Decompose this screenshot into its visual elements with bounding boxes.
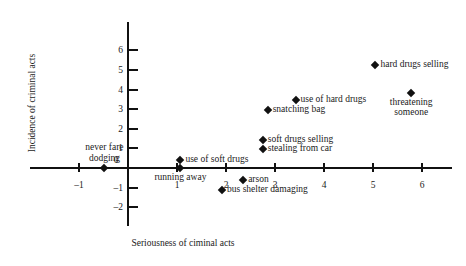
scatter-chart: –10123456 –2–1123456 hard drugs sellingt… [0,0,466,266]
y-axis-tick-label: 2 [103,124,123,134]
data-point-label: snatching bag [273,104,326,115]
diamond-marker-icon [263,106,271,114]
y-axis-title: Incidence of criminal acts [27,23,37,183]
x-axis-tick [323,163,325,172]
y-axis-tick [129,206,138,208]
data-point-label: never fare dodging [69,142,139,163]
x-axis-tick-label: 5 [363,180,383,190]
data-point-label: use of soft drugs [185,154,248,165]
y-axis-tick-label: –1 [103,183,123,193]
diamond-marker-icon [100,164,108,172]
x-axis-tick-label: 4 [314,180,334,190]
x-axis-tick-label: –1 [69,180,89,190]
x-axis-tick-label: 6 [412,180,432,190]
x-axis-tick [274,163,276,172]
diamond-marker-icon [259,135,267,143]
data-point-label: bus shelter damaging [227,184,308,195]
y-axis-tick [129,128,138,130]
y-axis-tick-label: 6 [103,45,123,55]
y-axis-tick-label: 4 [103,85,123,95]
data-point-label: threatening someone [376,97,446,118]
y-axis-line [127,22,129,226]
x-axis-line [30,167,452,169]
diamond-marker-icon [259,145,267,153]
diamond-marker-icon [371,61,379,69]
x-axis-tick [127,163,129,172]
y-axis-tick [129,187,138,189]
y-axis-tick-label: 3 [103,104,123,114]
y-axis-tick-label: 5 [103,65,123,75]
diamond-marker-icon [407,88,415,96]
x-axis-tick [421,163,423,172]
y-axis-tick-label: –2 [103,202,123,212]
y-axis-tick [129,49,138,51]
y-axis-tick [129,69,138,71]
data-point-label: running away [145,172,215,183]
x-axis-title: Seriousness of ciminal acts [68,238,298,248]
x-axis-tick [372,163,374,172]
data-point-label: hard drugs selling [380,59,448,70]
y-axis-tick [129,108,138,110]
data-point-label: stealing from car [268,143,332,154]
x-axis-tick [78,163,80,172]
y-axis-tick [129,89,138,91]
